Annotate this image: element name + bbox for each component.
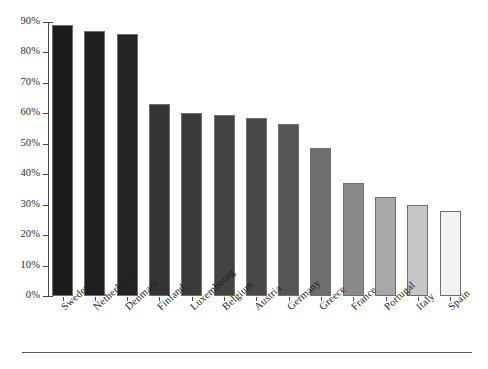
bar: [149, 104, 170, 296]
footer-rule: [22, 352, 472, 353]
y-axis-tick-label: 40%: [4, 167, 40, 178]
bar-chart-figure: 0%10%20%30%40%50%60%70%80%90% SwedenNeth…: [0, 0, 488, 369]
y-axis-tick-label: 90%: [4, 15, 40, 26]
y-axis-tick: [43, 205, 49, 206]
bar: [181, 113, 202, 296]
y-axis-tick: [43, 235, 49, 236]
bar: [343, 183, 364, 296]
y-axis-tick-label: 20%: [4, 228, 40, 239]
y-axis-tick: [43, 52, 49, 53]
bar: [375, 197, 396, 296]
y-axis-tick: [43, 83, 49, 84]
y-axis-tick: [43, 296, 49, 297]
y-axis-tick: [43, 144, 49, 145]
bar: [84, 31, 105, 296]
bar: [310, 148, 331, 296]
y-axis-tick: [43, 113, 49, 114]
y-axis-tick-label: 10%: [4, 259, 40, 270]
bar: [117, 34, 138, 296]
y-axis-tick-label: 30%: [4, 198, 40, 209]
y-axis-tick-label: 50%: [4, 137, 40, 148]
y-axis-tick-label: 0%: [4, 289, 40, 300]
y-axis-tick-label: 60%: [4, 106, 40, 117]
bar: [440, 211, 461, 296]
y-axis-line: [48, 22, 49, 297]
bar: [52, 25, 73, 296]
y-axis-tick: [43, 266, 49, 267]
y-axis-tick: [43, 174, 49, 175]
y-axis-tick: [43, 22, 49, 23]
y-axis-tick-label: 70%: [4, 76, 40, 87]
bar: [246, 118, 267, 296]
y-axis-tick-label: 80%: [4, 45, 40, 56]
bar: [278, 124, 299, 296]
